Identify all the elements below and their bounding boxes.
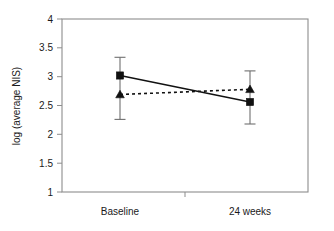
- x-tick-label-24-weeks: 24 weeks: [229, 206, 271, 217]
- y-tick-label-1-5: 1.5: [39, 158, 53, 169]
- y-tick-label-3: 3: [47, 71, 53, 82]
- y-tick-label-2-5: 2.5: [39, 100, 53, 111]
- marker-square-24-weeks: [246, 98, 253, 105]
- chart-canvas: 4 3.5 3 2.5 2 1.5 1 log (average NIS) Ba…: [0, 0, 334, 231]
- y-tick-label-3-5: 3.5: [39, 42, 53, 53]
- chart-figure: 4 3.5 3 2.5 2 1.5 1 log (average NIS) Ba…: [0, 0, 334, 231]
- marker-square-baseline: [116, 72, 123, 79]
- y-tick-label-1: 1: [47, 187, 53, 198]
- x-tick-label-baseline: Baseline: [101, 206, 140, 217]
- y-tick-label-2: 2: [47, 129, 53, 140]
- y-tick-label-4: 4: [47, 14, 53, 25]
- y-axis-title: log (average NIS): [11, 67, 22, 145]
